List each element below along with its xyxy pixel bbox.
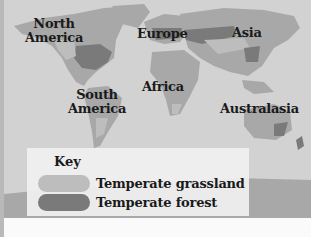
key-title: Key	[54, 154, 81, 169]
forest-swatch	[38, 194, 90, 211]
label-north-america: North America	[18, 17, 90, 45]
label-north-america-line2: America	[18, 31, 90, 45]
label-south-america-line2: America	[62, 102, 132, 116]
label-europe: Europe	[137, 27, 187, 41]
key-item-grassland: Temperate grassland	[96, 176, 245, 191]
key-item-forest: Temperate forest	[96, 195, 217, 210]
world-map: North America Europe Asia Africa South A…	[4, 0, 311, 218]
page-margin	[4, 218, 311, 237]
label-africa: Africa	[142, 80, 184, 94]
label-south-america-line1: South	[62, 88, 132, 102]
grassland-swatch	[38, 175, 90, 192]
label-north-america-line1: North	[18, 17, 90, 31]
label-asia: Asia	[232, 26, 262, 40]
label-south-america: South America	[62, 88, 132, 116]
map-key: Key Temperate grassland Temperate forest	[27, 148, 249, 216]
label-australasia: Australasia	[220, 102, 299, 116]
